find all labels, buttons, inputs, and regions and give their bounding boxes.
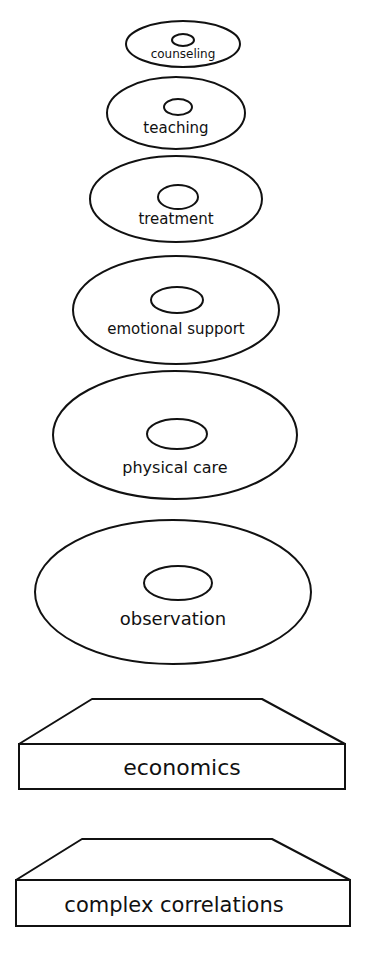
- disc-label: teaching: [143, 119, 208, 137]
- block-top-face: [16, 839, 350, 880]
- disc-outline: [73, 256, 279, 364]
- disc-label: physical care: [122, 458, 227, 477]
- diagram-canvas: counselingteachingtreatmentemotional sup…: [0, 0, 368, 967]
- disc-teaching: teaching: [107, 77, 245, 149]
- disc-label: observation: [120, 608, 226, 629]
- disc-hole: [158, 185, 198, 209]
- block-economics: economics: [19, 699, 345, 789]
- disc-observation: observation: [35, 520, 311, 664]
- block-label: economics: [123, 755, 241, 780]
- block-complex-correlations: complex correlations: [16, 839, 350, 926]
- disc-treatment: treatment: [90, 156, 262, 242]
- disc-counseling: counseling: [126, 21, 240, 67]
- disc-outline: [90, 156, 262, 242]
- disc-hole: [147, 419, 207, 449]
- disc-hole: [151, 287, 203, 313]
- disc-hole: [172, 34, 194, 46]
- disc-label: treatment: [138, 210, 213, 228]
- disc-label: emotional support: [107, 320, 245, 338]
- disc-label: counseling: [151, 47, 216, 61]
- disc-emotional-support: emotional support: [73, 256, 279, 364]
- disc-hole: [164, 99, 192, 115]
- disc-hole: [144, 566, 212, 600]
- block-label: complex correlations: [64, 893, 283, 917]
- disc-physical-care: physical care: [53, 371, 297, 499]
- disc-outline: [35, 520, 311, 664]
- block-top-face: [19, 699, 345, 744]
- disc-outline: [107, 77, 245, 149]
- disc-outline: [53, 371, 297, 499]
